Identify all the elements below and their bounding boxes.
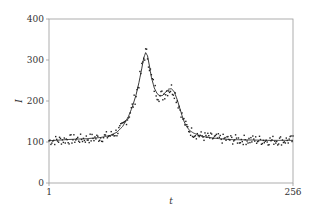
data-point <box>102 141 103 142</box>
data-point <box>242 141 243 142</box>
data-point <box>167 95 168 96</box>
data-point <box>254 140 255 141</box>
data-point <box>189 131 190 132</box>
data-point <box>176 102 177 103</box>
data-point <box>255 136 256 137</box>
data-point <box>157 99 158 100</box>
scatter-points <box>48 48 293 146</box>
data-point <box>89 134 90 135</box>
data-point <box>111 131 112 132</box>
data-point <box>266 141 267 142</box>
data-point <box>144 59 145 60</box>
data-point <box>70 134 71 135</box>
x-axis-ticks: 1256 <box>46 183 302 197</box>
y-tick-label: 100 <box>27 137 44 147</box>
data-point <box>199 136 200 137</box>
data-point <box>235 134 236 135</box>
data-point <box>146 48 147 49</box>
data-point <box>73 134 74 135</box>
data-point <box>82 141 83 142</box>
data-point <box>60 138 61 139</box>
data-point <box>196 138 197 139</box>
data-point <box>227 136 228 137</box>
data-point <box>173 94 174 95</box>
data-point <box>246 140 247 141</box>
data-point <box>245 144 246 145</box>
data-point <box>119 125 120 126</box>
data-point <box>250 137 251 138</box>
data-point <box>195 135 196 136</box>
data-point <box>97 136 98 137</box>
data-point <box>276 141 277 142</box>
data-point <box>106 131 107 132</box>
data-point <box>168 90 169 91</box>
data-point <box>85 141 86 142</box>
data-point <box>211 133 212 134</box>
data-point <box>138 87 139 88</box>
data-point <box>180 116 181 117</box>
data-point <box>139 71 140 72</box>
data-point <box>58 142 59 143</box>
data-point <box>68 143 69 144</box>
data-point <box>290 135 291 136</box>
data-point <box>253 138 254 139</box>
data-point <box>105 134 106 135</box>
data-point <box>94 136 95 137</box>
data-point <box>286 137 287 138</box>
data-point <box>205 135 206 136</box>
data-point <box>79 142 80 143</box>
data-point <box>164 98 165 99</box>
data-point <box>55 136 56 137</box>
data-point <box>220 135 221 136</box>
data-point <box>51 142 52 143</box>
chart: 0100200300400 1256 t I <box>0 0 315 214</box>
data-point <box>155 95 156 96</box>
data-point <box>134 104 135 105</box>
data-point <box>86 135 87 136</box>
x-tick-label: 1 <box>46 187 52 197</box>
data-point <box>90 140 91 141</box>
data-point <box>248 138 249 139</box>
data-point <box>231 137 232 138</box>
data-point <box>65 142 66 143</box>
data-point <box>291 141 292 142</box>
data-point <box>237 142 238 143</box>
data-point <box>281 144 282 145</box>
plot-frame <box>49 19 293 183</box>
data-point <box>256 143 257 144</box>
data-point <box>161 90 162 91</box>
data-point <box>116 135 117 136</box>
data-point <box>99 140 100 141</box>
data-point <box>162 99 163 100</box>
data-point <box>177 107 178 108</box>
data-point <box>224 137 225 138</box>
data-point <box>262 143 263 144</box>
data-point <box>249 142 250 143</box>
data-point <box>154 91 155 92</box>
data-point <box>93 140 94 141</box>
data-point <box>71 142 72 143</box>
data-point <box>207 133 208 134</box>
data-point <box>222 134 223 135</box>
data-point <box>191 127 192 128</box>
data-point <box>292 135 293 136</box>
data-point <box>203 140 204 141</box>
data-point <box>208 135 209 136</box>
data-point <box>88 139 89 140</box>
data-point <box>230 135 231 136</box>
data-point <box>50 144 51 145</box>
data-point <box>153 79 154 80</box>
data-point <box>252 135 253 136</box>
data-point <box>170 91 171 92</box>
data-point <box>61 143 62 144</box>
data-point <box>77 137 78 138</box>
data-point <box>200 131 201 132</box>
data-point <box>272 136 273 137</box>
data-point <box>126 124 127 125</box>
y-axis-label: I <box>14 99 24 104</box>
data-point <box>158 101 159 102</box>
data-point <box>54 144 55 145</box>
data-point <box>165 94 166 95</box>
data-point <box>238 137 239 138</box>
data-point <box>264 142 265 143</box>
